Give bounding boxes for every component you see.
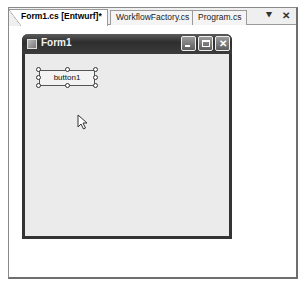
- tab-form1-design[interactable]: Form1.cs [Entwurf]*: [9, 9, 108, 26]
- tab-program[interactable]: Program.cs: [192, 10, 247, 25]
- tab-workflowfactory[interactable]: WorkflowFactory.cs: [110, 10, 195, 25]
- form-app-icon: [27, 39, 37, 49]
- maximize-button[interactable]: [198, 36, 213, 51]
- document-window: Form1.cs [Entwurf]* WorkflowFactory.cs P…: [8, 7, 298, 279]
- tab-controls: ⯆ ✕: [259, 10, 290, 22]
- close-icon[interactable]: ✕: [282, 10, 290, 21]
- form-client-area[interactable]: button1: [25, 54, 229, 236]
- minimize-icon: [185, 45, 190, 47]
- resize-handle-s[interactable]: [65, 83, 70, 88]
- mouse-pointer-icon: [77, 114, 89, 130]
- form-close-button[interactable]: ✕: [215, 36, 230, 51]
- resize-handle-w[interactable]: [36, 75, 41, 80]
- window-position-icon[interactable]: ⯆: [265, 10, 273, 22]
- resize-handle-ne[interactable]: [93, 67, 98, 72]
- resize-handle-nw[interactable]: [36, 67, 41, 72]
- form-titlebar[interactable]: Form1 ✕: [22, 34, 232, 54]
- resize-handle-n[interactable]: [65, 67, 70, 72]
- close-icon: ✕: [219, 38, 227, 49]
- form-title: Form1: [41, 37, 72, 48]
- minimize-button[interactable]: [181, 36, 196, 51]
- resize-handle-sw[interactable]: [36, 83, 41, 88]
- designer-form[interactable]: Form1 ✕ button1: [22, 34, 232, 239]
- maximize-icon: [202, 40, 210, 47]
- tab-strip: Form1.cs [Entwurf]* WorkflowFactory.cs P…: [9, 8, 296, 25]
- resize-handle-se[interactable]: [93, 83, 98, 88]
- resize-handle-e[interactable]: [93, 75, 98, 80]
